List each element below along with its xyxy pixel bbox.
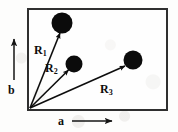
vector-R3-label: R3: [100, 83, 113, 95]
atom-marker-R3: [124, 51, 143, 70]
vector-R3-label-subscript: 3: [109, 88, 113, 97]
atom-marker-R1: [52, 13, 73, 34]
vector-R2-label-text: R: [45, 61, 54, 75]
vector-R2-label-subscript: 2: [54, 67, 58, 76]
axis-b-label: b: [8, 84, 15, 96]
axis-a-label: a: [58, 115, 64, 127]
vector-R1-label-subscript: 1: [43, 49, 47, 58]
unit-cell-vector-figure: Unit cell R1 R2 R3 b a: [0, 0, 178, 132]
vector-R1-label-text: R: [34, 43, 43, 57]
atom-marker-R2: [66, 56, 83, 73]
vector-R1-label: R1: [34, 44, 47, 56]
vector-R3-label-text: R: [100, 82, 109, 96]
diagram-canvas: [0, 0, 178, 132]
vector-R2-label: R2: [45, 62, 58, 74]
